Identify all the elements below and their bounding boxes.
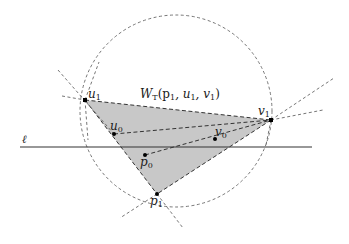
geometry-diagram: ℓ u1 v1 u0 v0 p0 p1 WT(p1, u1, v1) (0, 0, 349, 244)
ext-line-v1-c (266, 120, 271, 145)
ext-line-u1-d (85, 100, 88, 140)
label-ell: ℓ (22, 133, 27, 146)
ext-line-v1-a (271, 78, 334, 120)
point-u1 (83, 98, 87, 102)
label-v1: v1 (258, 104, 270, 119)
label-W-region: WT(p1, u1, v1) (140, 87, 220, 102)
label-u1: u1 (88, 87, 101, 102)
ext-line-v1-b (271, 110, 323, 120)
label-p1: p1 (150, 194, 163, 209)
